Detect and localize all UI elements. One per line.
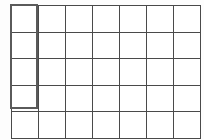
grid-cell[interactable] bbox=[147, 85, 174, 112]
grid-cell[interactable] bbox=[12, 112, 39, 139]
grid-row bbox=[12, 32, 201, 59]
grid-cell[interactable] bbox=[66, 6, 93, 33]
grid-cell[interactable] bbox=[174, 6, 201, 33]
grid-cell[interactable] bbox=[120, 6, 147, 33]
grid-cell[interactable] bbox=[174, 59, 201, 86]
grid-cell[interactable] bbox=[66, 112, 93, 139]
grid-cell[interactable] bbox=[174, 112, 201, 139]
grid-cell[interactable] bbox=[93, 85, 120, 112]
grid-cell[interactable] bbox=[174, 32, 201, 59]
grid-row bbox=[12, 85, 201, 112]
grid-cell[interactable] bbox=[39, 59, 66, 86]
grid-cell[interactable] bbox=[39, 6, 66, 33]
grid-body bbox=[12, 6, 201, 139]
grid-row bbox=[12, 59, 201, 86]
grid-canvas bbox=[0, 0, 204, 140]
grid-cell[interactable] bbox=[12, 85, 39, 112]
grid-cell[interactable] bbox=[66, 32, 93, 59]
grid-cell[interactable] bbox=[93, 59, 120, 86]
grid-cell[interactable] bbox=[120, 112, 147, 139]
grid-cell[interactable] bbox=[12, 32, 39, 59]
grid-row bbox=[12, 6, 201, 33]
grid-cell[interactable] bbox=[39, 32, 66, 59]
grid-cell[interactable] bbox=[66, 59, 93, 86]
grid-cell[interactable] bbox=[147, 59, 174, 86]
grid-row bbox=[12, 112, 201, 139]
grid-cell[interactable] bbox=[93, 32, 120, 59]
grid-cell[interactable] bbox=[39, 85, 66, 112]
grid-cell[interactable] bbox=[120, 59, 147, 86]
grid-cell[interactable] bbox=[147, 32, 174, 59]
worksheet-grid[interactable] bbox=[11, 5, 201, 139]
grid-cell[interactable] bbox=[93, 112, 120, 139]
grid-cell[interactable] bbox=[66, 85, 93, 112]
grid-cell[interactable] bbox=[120, 32, 147, 59]
grid-cell[interactable] bbox=[147, 6, 174, 33]
grid-cell[interactable] bbox=[39, 112, 66, 139]
grid-cell[interactable] bbox=[12, 6, 39, 33]
grid-cell[interactable] bbox=[120, 85, 147, 112]
grid-cell[interactable] bbox=[147, 112, 174, 139]
grid-cell[interactable] bbox=[12, 59, 39, 86]
grid-cell[interactable] bbox=[93, 6, 120, 33]
grid-cell[interactable] bbox=[174, 85, 201, 112]
